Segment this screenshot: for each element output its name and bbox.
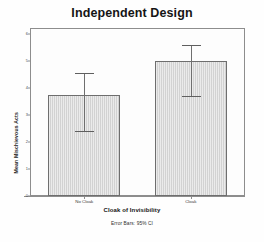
x-axis-line (24, 196, 245, 197)
x-tick-label: No Cloak (75, 200, 93, 204)
y-tick-mark (28, 34, 31, 35)
plot-area: 0123456 (31, 34, 244, 196)
error-bar-cap-upper (182, 45, 201, 46)
y-tick-mark (28, 169, 31, 170)
x-tick-label: Cloak (185, 200, 196, 204)
y-axis-title: Mean Mischievous Acts (13, 112, 19, 173)
error-bar-cap-lower (182, 96, 201, 97)
y-tick-mark (28, 61, 31, 62)
x-axis-title: Cloak of Invisibility (0, 207, 264, 213)
chart-figure: Independent Design Mean Mischievous Acts… (0, 0, 264, 242)
y-tick-mark (28, 196, 31, 197)
error-bar-footnote: Error Bars: 95% CI (0, 221, 264, 226)
y-tick-mark (28, 88, 31, 89)
error-bar-line (191, 45, 192, 96)
y-tick-mark (28, 142, 31, 143)
error-bar-line (84, 73, 85, 131)
y-tick-mark (28, 115, 31, 116)
error-bar-cap-lower (75, 131, 94, 132)
y-axis-title-wrap: Mean Mischievous Acts (22, 28, 23, 196)
chart-title: Independent Design (0, 6, 264, 20)
error-bar-cap-upper (75, 73, 94, 74)
